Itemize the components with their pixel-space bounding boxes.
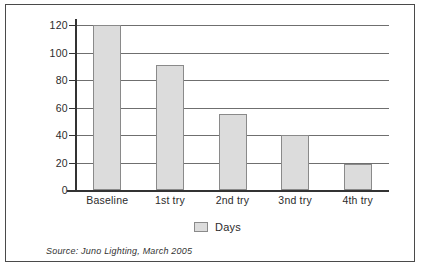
y-axis-tick-labels: 120100806040200	[36, 25, 68, 190]
gridline	[76, 25, 389, 26]
x-axis-category-label: 1st try	[155, 194, 185, 206]
gridline	[76, 53, 389, 54]
y-axis-tick-label: 60	[56, 102, 68, 114]
gridline	[76, 108, 389, 109]
legend-item-label: Days	[215, 221, 241, 233]
y-axis-tick-label: 20	[56, 157, 68, 169]
chart-figure: 120100806040200 Baseline1st try2nd try3n…	[0, 0, 423, 270]
y-axis-tick-label: 100	[50, 47, 68, 59]
x-axis-line	[67, 190, 389, 192]
x-axis-category-label: 2nd try	[216, 194, 250, 206]
y-axis-tick-mark	[69, 163, 77, 164]
x-axis-category-label: 4th try	[342, 194, 373, 206]
y-axis-tick-mark	[69, 135, 77, 136]
y-axis-tick-label: 80	[56, 74, 68, 86]
bar	[156, 65, 184, 190]
chart-frame: 120100806040200 Baseline1st try2nd try3n…	[5, 4, 415, 262]
chart-legend: Days	[6, 221, 423, 233]
x-axis-category-label: Baseline	[86, 194, 128, 206]
y-axis-tick-label: 40	[56, 129, 68, 141]
y-axis-line	[75, 19, 77, 192]
y-axis-tick-label: 120	[50, 19, 68, 31]
bar	[281, 135, 309, 190]
y-axis-tick-mark	[69, 53, 77, 54]
bar	[344, 164, 372, 190]
x-axis-category-label: 3nd try	[278, 194, 312, 206]
y-axis-tick-mark	[69, 108, 77, 109]
bar	[219, 114, 247, 190]
x-axis-category-labels: Baseline1st try2nd try3nd try4th try	[76, 194, 389, 210]
days-swatch-icon	[194, 222, 208, 232]
y-axis-tick-mark	[69, 25, 77, 26]
plot-area	[76, 25, 389, 190]
bar	[93, 25, 121, 190]
y-axis-tick-mark	[69, 80, 77, 81]
source-note: Source: Juno Lighting, March 2005	[46, 246, 192, 256]
gridline	[76, 80, 389, 81]
